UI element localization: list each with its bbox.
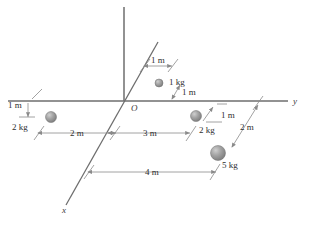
mass-label-2kg-left: 2 kg — [12, 122, 28, 132]
origin-label: O — [131, 103, 138, 113]
dimension-top-diagonal-1m — [172, 85, 180, 99]
axis-label-x: x — [61, 205, 66, 215]
dimension-label-bottom-4m: 4 m — [145, 167, 159, 177]
axis-label-y: y — [292, 96, 297, 106]
mass-label-5kg: 5 kg — [222, 160, 238, 170]
physics-diagram: y x O 1 m 2 kg 2 m 1 m 1 kg 1 m 3 m 2 kg… — [0, 0, 316, 239]
mass-sphere-2kg-left — [46, 112, 57, 123]
dimension-label-left-2m: 2 m — [70, 128, 84, 138]
dimension-left-1m — [19, 89, 42, 117]
dimension-label-left-1m: 1 m — [8, 100, 22, 110]
dimension-label-right-1m: 1 m — [221, 110, 235, 120]
mass-label-2kg-right: 2 kg — [199, 125, 215, 135]
dimension-label-top-diagonal-1m: 1 m — [182, 87, 196, 97]
dimension-label-middle-3m: 3 m — [143, 128, 157, 138]
mass-sphere-1kg-top — [155, 79, 163, 87]
mass-sphere-5kg — [211, 146, 226, 161]
dimension-label-top-1m: 1 m — [151, 55, 165, 65]
dimension-label-right-2m: 2 m — [240, 122, 254, 132]
mass-label-1kg: 1 kg — [169, 77, 185, 87]
mass-sphere-2kg-right — [191, 111, 202, 122]
